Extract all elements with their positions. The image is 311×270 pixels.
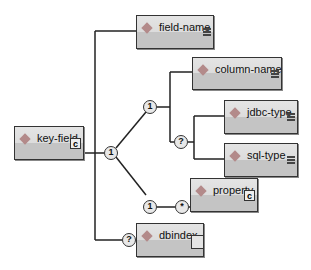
complex-type-icon: c xyxy=(70,138,81,149)
sequence-connector[interactable]: 1 xyxy=(143,100,157,114)
element-diamond-icon xyxy=(141,230,152,241)
element-diamond-icon xyxy=(229,150,240,161)
node-label: sql-type xyxy=(247,149,286,161)
sequence-connector[interactable]: 1 xyxy=(143,200,157,214)
element-diamond-icon xyxy=(19,133,30,144)
optional-connector[interactable]: ? xyxy=(174,135,188,149)
simple-content-icon xyxy=(271,70,279,82)
sql-type-node[interactable]: sql-type xyxy=(224,143,298,177)
complex-type-icon: c xyxy=(244,190,255,201)
field-name-node[interactable]: field-name xyxy=(136,15,214,49)
element-diamond-icon xyxy=(195,185,206,196)
key-field-node[interactable]: key-field c xyxy=(14,126,84,160)
choice-connector[interactable]: 1 xyxy=(104,146,118,160)
empty-content-icon xyxy=(191,235,204,249)
simple-content-icon xyxy=(287,156,295,168)
element-diamond-icon xyxy=(229,107,240,118)
optional-connector[interactable]: ? xyxy=(122,233,136,247)
property-node[interactable]: property c xyxy=(190,178,258,212)
simple-content-icon xyxy=(203,28,211,40)
element-diamond-icon xyxy=(141,22,152,33)
node-label: jdbc-type xyxy=(247,106,292,118)
simple-content-icon xyxy=(287,113,295,125)
multiplicity-connector[interactable]: * xyxy=(175,200,189,214)
dbindex-node[interactable]: dbindex xyxy=(136,223,204,257)
jdbc-type-node[interactable]: jdbc-type xyxy=(224,100,298,134)
column-name-node[interactable]: column-name xyxy=(192,57,282,90)
element-diamond-icon xyxy=(197,64,208,75)
